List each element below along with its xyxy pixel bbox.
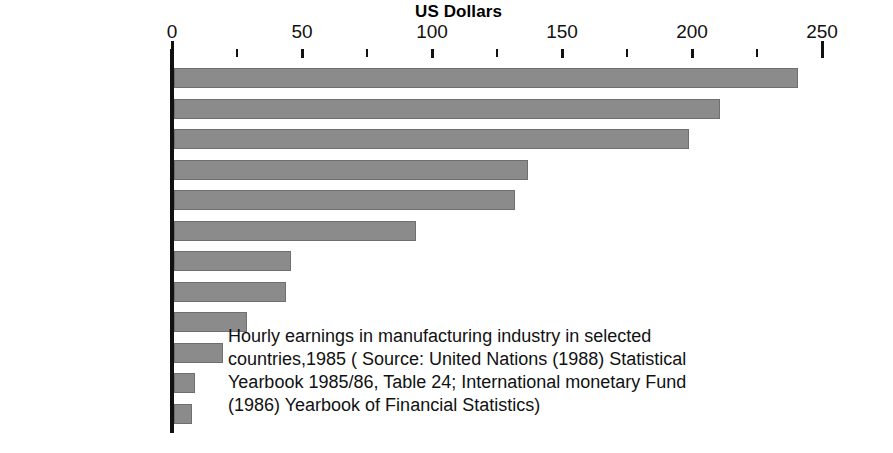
- bar-bangladesh[interactable]: [174, 404, 192, 424]
- bar-singapore[interactable]: [174, 251, 291, 271]
- bar-ireland[interactable]: [174, 190, 515, 210]
- bar-united-kingdom[interactable]: [174, 160, 528, 180]
- bar-spain[interactable]: [174, 221, 416, 241]
- caption-line-4: (1986) Yearbook of Financial Statistics): [228, 394, 808, 417]
- bar-canada[interactable]: [174, 99, 720, 119]
- bar-south-korea[interactable]: [174, 282, 286, 302]
- caption-line-1: Hourly earnings in manufacturing industr…: [228, 325, 808, 348]
- caption-line-3: Yearbook 1985/86, Table 24; Internationa…: [228, 371, 808, 394]
- bar-sri-lanka[interactable]: [174, 373, 195, 393]
- caption-line-2: countries,1985 ( Source: United Nations …: [228, 348, 808, 371]
- bar-japan[interactable]: [174, 129, 689, 149]
- bar-chart: US Dollars 050100150200250 United States…: [0, 0, 893, 453]
- bar-kenya[interactable]: [174, 343, 223, 363]
- bar-united-states[interactable]: [174, 68, 798, 88]
- chart-caption: Hourly earnings in manufacturing industr…: [228, 325, 808, 417]
